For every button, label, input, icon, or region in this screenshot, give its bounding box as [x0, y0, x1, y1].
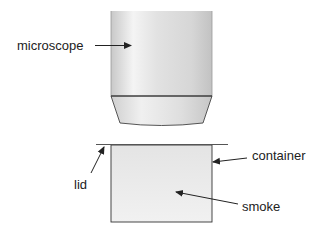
microscope-smoke-cell-diagram: microscope container lid smoke — [0, 0, 328, 236]
container — [96, 145, 228, 223]
label-microscope-text: microscope — [17, 38, 83, 53]
arrow-lid — [91, 147, 104, 173]
microscope-tube — [111, 11, 212, 96]
container-box — [111, 145, 212, 222]
label-smoke-text: smoke — [242, 199, 280, 214]
label-lid-text: lid — [74, 177, 87, 192]
arrow-container — [213, 158, 247, 162]
label-container: container — [213, 148, 306, 163]
label-lid: lid — [74, 147, 104, 192]
microscope — [111, 11, 212, 126]
microscope-objective-cone — [111, 96, 212, 126]
label-container-text: container — [252, 148, 306, 163]
